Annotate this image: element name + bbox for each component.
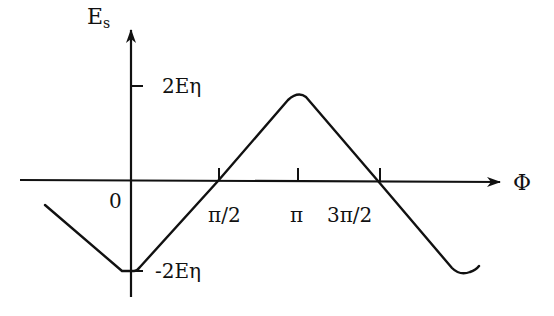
diagram-figure: Es 2Eη -2Eη 0 π/2 π 3π/2 Φ: [0, 0, 554, 316]
curve-es: [45, 95, 479, 274]
y-axis-label-main: E: [87, 4, 103, 29]
x-axis-label: Φ: [513, 172, 531, 194]
x-tick-label-pi-half: π/2: [208, 205, 241, 225]
x-tick-label-3pi-half: 3π/2: [327, 205, 372, 225]
y-tick-label-bottom: -2Eη: [155, 261, 201, 281]
y-tick-label-top: 2Eη: [162, 76, 201, 96]
y-axis-label-sub: s: [103, 15, 110, 31]
origin-label: 0: [109, 191, 122, 211]
y-axis-label: Es: [87, 6, 110, 28]
x-tick-label-pi: π: [290, 205, 303, 225]
plot-canvas: [0, 0, 554, 316]
x-axis: [20, 180, 500, 182]
